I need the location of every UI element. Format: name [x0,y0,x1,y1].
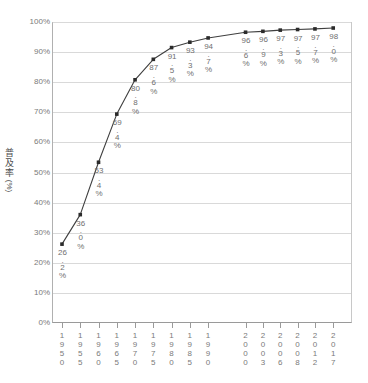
data-point-label: 36.0% [74,220,87,252]
x-axis-tick [263,323,264,328]
y-axis-title-char-1: 及 [2,158,16,168]
data-point-label: 26.2% [56,249,69,281]
gridline [53,293,351,294]
y-axis-tick-label: 50% [16,169,50,177]
x-axis-tick [117,323,118,328]
data-point-label: 93.3% [184,47,197,79]
x-axis-tick [298,323,299,328]
x-axis-tick-label: 1950 [56,331,68,367]
y-axis-tick-label: 30% [16,229,50,237]
y-axis-title-char-2: 率 [2,168,16,178]
y-axis-tick-label: 70% [16,108,50,116]
x-axis-tick-label: 2003 [257,331,269,367]
data-point-label: 97.3% [274,35,287,67]
data-point-label: 97.5% [292,35,305,67]
x-axis-tick-label: 1975 [147,331,159,367]
x-axis-tick [135,323,136,328]
y-axis-title-char-0: 普 [2,148,16,158]
gridline [53,233,351,234]
x-axis-tick-label: 2000 [240,331,252,367]
y-axis-tick-label: 80% [16,78,50,86]
x-axis-tick [315,323,316,328]
y-axis-tick-label: 100% [16,18,50,26]
x-axis-tick-label: 1965 [111,331,123,367]
x-axis-tick [190,323,191,328]
y-axis-tick-label: 40% [16,199,50,207]
x-axis-tick-label: 1985 [184,331,196,367]
data-point-label: 91.5% [166,53,179,85]
x-axis-tick-label: 1970 [129,331,141,367]
data-point-label: 80.8% [129,85,142,117]
x-axis-tick-label: 2017 [327,331,339,367]
gridline [53,203,351,204]
data-point-label: 96.9% [257,36,270,68]
gridline [53,22,351,23]
x-axis-tick [62,323,63,328]
y-axis-tick-label: 0% [16,319,50,327]
x-axis-tick [280,323,281,328]
x-axis-tick-label: 1955 [74,331,86,367]
y-axis-title: 普 及 率 (%) [2,148,16,191]
x-axis-tick [99,323,100,328]
x-axis-tick [333,323,334,328]
data-point-label: 69.4% [111,119,124,151]
x-axis-tick [172,323,173,328]
y-axis-tick-label: 90% [16,48,50,56]
data-point-label: 98.0% [327,33,340,65]
x-axis-tick-label: 1980 [166,331,178,367]
x-axis-tick-label: 1960 [93,331,105,367]
data-point-label: 94.7% [202,43,215,75]
gridline [53,82,351,83]
data-point-label: 97.7% [309,34,322,66]
data-point-label: 87.6% [147,64,160,96]
y-axis-tick-label: 10% [16,289,50,297]
x-axis-tick-label: 2008 [292,331,304,367]
gridline [53,142,351,143]
gridline [53,263,351,264]
y-axis-tick-label: 20% [16,259,50,267]
x-axis-tick-label: 2012 [309,331,321,367]
data-point-label: 96.6% [240,37,253,69]
y-axis-tick-label: 60% [16,138,50,146]
x-axis-tick [153,323,154,328]
x-axis-tick [208,323,209,328]
gridline [53,112,351,113]
x-axis-tick [246,323,247,328]
y-axis-title-unit: (%) [4,179,14,193]
x-axis-tick-label: 2006 [274,331,286,367]
chart-container: 普 及 率 (%) 0%10%20%30%40%50%60%70%80%90%1… [0,0,368,383]
data-point-label: 53.4% [93,167,106,199]
x-axis-tick [80,323,81,328]
x-axis-tick-label: 1990 [202,331,214,367]
